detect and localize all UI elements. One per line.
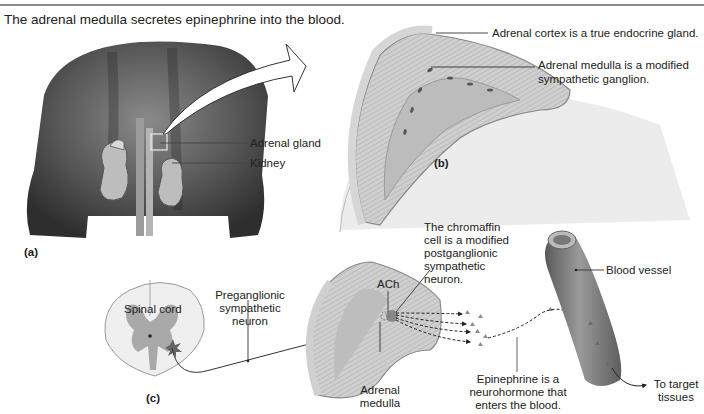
- callout-adrenal-gland: Adrenal gland: [250, 137, 321, 150]
- label-chromaffin-4: sympathetic: [424, 260, 485, 273]
- label-target-1: To target: [648, 378, 704, 391]
- blood-vessel: [545, 231, 646, 386]
- callout-adrenal-medulla-1: Adrenal medulla is a modified: [538, 59, 689, 72]
- panel-label-b: (b): [434, 157, 449, 169]
- label-epinephrine-1: Epinephrine is a: [468, 373, 568, 386]
- label-chromaffin-5: neuron.: [424, 273, 463, 286]
- label-adrenal-medulla-2: medulla: [355, 397, 405, 410]
- label-preganglionic-1: Preganglionic: [212, 289, 288, 302]
- label-adrenal-medulla-1: Adrenal: [355, 384, 405, 397]
- torso-illustration: [27, 42, 268, 239]
- label-blood-vessel: Blood vessel: [606, 264, 671, 277]
- callout-adrenal-medulla-2: sympathetic ganglion.: [538, 73, 649, 86]
- label-chromaffin-2: cell is a modified: [424, 234, 509, 247]
- label-preganglionic-2: sympathetic: [212, 302, 288, 315]
- label-target-2: tissues: [648, 391, 704, 404]
- label-spinal-cord: Spinal cord: [124, 303, 182, 316]
- label-epinephrine-2: neurohormone that: [468, 386, 568, 399]
- label-chromaffin-1: The chromaffin: [424, 221, 501, 234]
- label-epinephrine-3: enters the blood.: [468, 399, 568, 412]
- panel-label-a: (a): [24, 246, 38, 258]
- callout-adrenal-cortex: Adrenal cortex is a true endocrine gland…: [492, 27, 698, 40]
- label-chromaffin-3: postganglionic: [424, 247, 498, 260]
- label-preganglionic-3: neuron: [212, 315, 288, 328]
- panel-label-c: (c): [146, 392, 160, 404]
- callout-kidney: Kidney: [250, 157, 285, 170]
- label-ach: ACh: [377, 278, 399, 291]
